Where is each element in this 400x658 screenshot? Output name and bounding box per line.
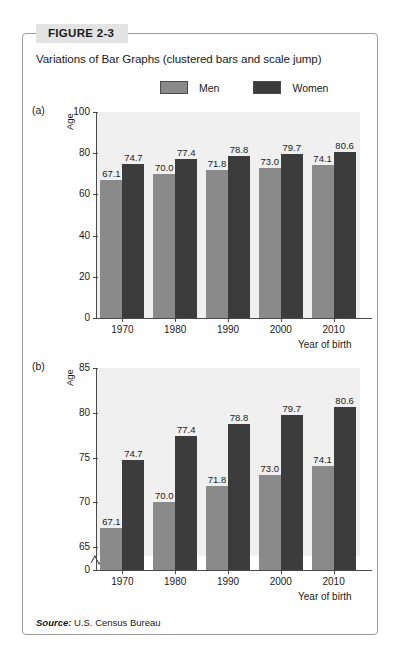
- bar-men-1990: [206, 486, 228, 570]
- bar-value-label: 78.8: [223, 412, 255, 423]
- y-tick-mark: [93, 458, 98, 459]
- bar-men-1970: [100, 528, 122, 570]
- bar-value-label: 79.7: [276, 403, 308, 414]
- y-tick-label: 0: [54, 564, 90, 575]
- y-tick-mark: [93, 570, 98, 571]
- figure-page: FIGURE 2-3 Variations of Bar Graphs (clu…: [0, 0, 400, 658]
- bar-men-2000: [259, 475, 281, 570]
- x-tick-mark: [122, 570, 123, 574]
- x-tick-label: 1980: [153, 576, 197, 587]
- y-tick-label: 65: [54, 541, 90, 552]
- y-tick-mark: [93, 368, 98, 369]
- y-tick-mark: [93, 502, 98, 503]
- x-tick-label: 2010: [312, 576, 356, 587]
- x-axis-line: [96, 570, 372, 571]
- bar-value-label: 80.6: [329, 395, 361, 406]
- y-tick-label: 75: [54, 452, 90, 463]
- bar-women-2010: [334, 407, 356, 570]
- x-tick-mark: [281, 570, 282, 574]
- bar-women-2000: [281, 415, 303, 570]
- source-text: U.S. Census Bureau: [74, 617, 161, 628]
- y-tick-label: 70: [54, 496, 90, 507]
- bar-men-2010: [312, 466, 334, 570]
- y-tick-mark: [93, 547, 98, 548]
- bar-women-1980: [175, 436, 197, 570]
- source-prefix: Source:: [36, 617, 71, 628]
- x-tick-label: 1970: [100, 576, 144, 587]
- bar-value-label: 77.4: [170, 424, 202, 435]
- y-tick-label: 85: [54, 362, 90, 373]
- x-tick-label: 1990: [206, 576, 250, 587]
- x-tick-label: 2000: [259, 576, 303, 587]
- bar-women-1970: [122, 460, 144, 570]
- y-axis-line: [96, 368, 97, 570]
- source-note: Source: U.S. Census Bureau: [36, 617, 161, 628]
- y-tick-label: 80: [54, 407, 90, 418]
- bar-value-label: 74.7: [117, 448, 149, 459]
- bar-women-1990: [228, 424, 250, 570]
- bar-chart-b: 0657075808567.174.7197070.077.4198071.87…: [0, 0, 400, 658]
- x-axis-title: Year of birth: [298, 591, 352, 602]
- x-tick-mark: [175, 570, 176, 574]
- bar-men-1980: [153, 502, 175, 570]
- x-tick-mark: [228, 570, 229, 574]
- y-tick-mark: [93, 413, 98, 414]
- x-tick-mark: [334, 570, 335, 574]
